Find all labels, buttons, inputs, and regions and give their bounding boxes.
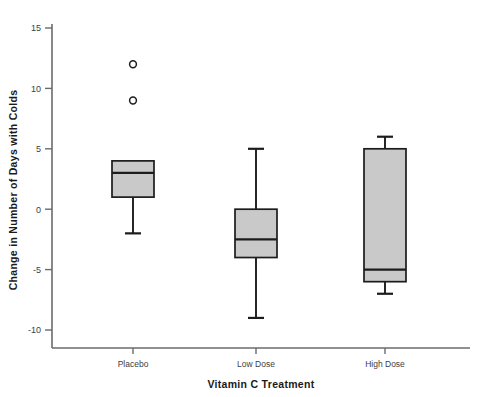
y-tick-label: 5 [36, 144, 41, 154]
y-tick-label: 10 [31, 84, 41, 94]
box-high-dose [364, 137, 406, 294]
box-series [112, 61, 406, 318]
box-rect [112, 161, 154, 197]
x-axis-title: Vitamin C Treatment [207, 378, 314, 390]
box-low-dose [235, 149, 277, 318]
y-axis-ticks: 151050-5-10 [28, 23, 52, 335]
y-axis-title: Change in Number of Days with Colds [7, 90, 19, 291]
y-tick-label: -10 [28, 325, 41, 335]
box-placebo [112, 61, 154, 234]
outlier-point [130, 97, 137, 104]
y-tick-label: -5 [33, 265, 41, 275]
x-tick-label-placebo: Placebo [118, 359, 149, 369]
box-rect [235, 209, 277, 257]
y-tick-label: 15 [31, 23, 41, 33]
x-tick-label-low-dose: Low Dose [237, 359, 275, 369]
outlier-point [130, 61, 137, 68]
plot-area: Change in Number of Days with Colds Vita… [0, 0, 479, 397]
box-rect [364, 149, 406, 282]
x-axis-ticks: PlaceboLow DoseHigh Dose [118, 348, 405, 369]
y-tick-label: 0 [36, 205, 41, 215]
x-tick-label-high-dose: High Dose [365, 359, 405, 369]
boxplot-chart: Change in Number of Days with Colds Vita… [0, 0, 479, 397]
